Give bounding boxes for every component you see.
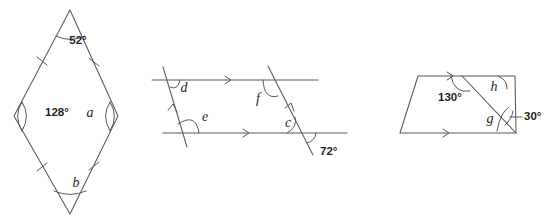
arc-angle-72 [307, 133, 316, 143]
figure-parallel-lines: d e f c 72° [152, 66, 347, 157]
figure-trapezium: 130° h g 30° [400, 72, 542, 137]
label-angle-f: f [256, 91, 262, 106]
label-angle-h: h [491, 79, 498, 94]
rhombus-tick-lower-right [89, 162, 99, 170]
rhombus-arc-left-outer [22, 102, 27, 131]
rhombus-arc-right-outer [106, 102, 111, 131]
label-angle-c: c [285, 115, 292, 130]
label-angle-72: 72° [320, 145, 338, 157]
geometry-figure-sheet: 52° 128° a b [0, 0, 555, 223]
label-angle-g: g [487, 111, 494, 126]
label-angle-e: e [202, 109, 208, 124]
rhombus-label-left-angle: 128° [45, 106, 69, 118]
transversal-right [268, 66, 313, 155]
arc-angle-h [498, 76, 507, 89]
arc-angle-d [170, 80, 180, 88]
arc-angle-f [263, 80, 278, 97]
rhombus-label-angle-b: b [73, 175, 80, 190]
arrow-marker-right-transversal [285, 103, 294, 111]
label-angle-30: 30° [524, 110, 542, 122]
rhombus-label-angle-a: a [87, 105, 94, 120]
label-angle-130: 130° [438, 91, 462, 103]
rhombus-tick-upper-right [89, 58, 99, 66]
arc-angle-130 [451, 76, 470, 91]
rhombus-arc-left-inner [18, 102, 23, 131]
geometry-canvas: 52° 128° a b [0, 0, 555, 223]
label-angle-d: d [181, 80, 189, 95]
figure-rhombus: 52° 128° a b [14, 10, 118, 214]
rhombus-label-top-angle: 52° [69, 34, 87, 46]
